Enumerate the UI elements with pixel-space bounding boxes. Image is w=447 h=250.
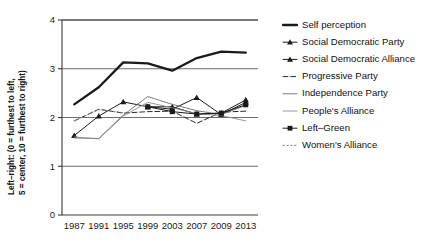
legend-item-label: Left–Green xyxy=(302,122,350,133)
legend-item-5[interactable]: Independence Party xyxy=(283,87,388,98)
x-axis-ticks: 19871991199519992003200720092013 xyxy=(64,220,257,231)
series-line xyxy=(74,52,246,105)
y-axis-ticks: 01234 xyxy=(50,14,62,220)
series-marker xyxy=(96,113,102,119)
y-tick-label: 4 xyxy=(50,14,55,25)
chart-legend: Self perceptionSocial Democratic PartySo… xyxy=(283,19,415,150)
y-tick-label: 0 xyxy=(50,209,55,220)
series-marker xyxy=(194,112,199,117)
series-marker xyxy=(120,99,126,105)
x-tick-label: 2003 xyxy=(162,220,183,231)
legend-item-label: Self perception xyxy=(302,19,366,30)
y-axis-title: Left–right: (0 = furthest to left, 5 = c… xyxy=(7,70,27,195)
x-tick-label: 1999 xyxy=(137,220,158,231)
series-1 xyxy=(74,52,246,105)
y-tick-label: 2 xyxy=(50,112,55,123)
x-tick-label: 1995 xyxy=(113,220,134,231)
x-tick-label: 1991 xyxy=(88,220,109,231)
legend-item-2[interactable]: Social Democratic Party xyxy=(283,36,405,47)
legend-item-label: Women's Alliance xyxy=(302,139,377,150)
legend-item-label: Social Democratic Alliance xyxy=(302,53,415,64)
legend-item-4[interactable]: Progressive Party xyxy=(283,70,378,81)
y-tick-label: 1 xyxy=(50,161,55,172)
x-tick-label: 2007 xyxy=(186,220,207,231)
legend-item-label: Progressive Party xyxy=(302,70,378,81)
series-7 xyxy=(145,102,248,116)
y-axis-title-line1: Left–right: (0 = furthest to left, xyxy=(7,78,16,195)
legend-swatch-marker xyxy=(288,126,293,131)
legend-item-3[interactable]: Social Democratic Alliance xyxy=(283,53,415,64)
x-tick-label: 2009 xyxy=(211,220,232,231)
data-series xyxy=(71,52,249,139)
chart-svg: Left–right: (0 = furthest to left, 5 = c… xyxy=(0,0,447,250)
legend-item-label: Independence Party xyxy=(302,87,388,98)
y-tick-label: 3 xyxy=(50,63,55,74)
series-marker xyxy=(243,102,248,107)
chart-figure: Left–right: (0 = furthest to left, 5 = c… xyxy=(0,0,447,250)
x-tick-label: 1987 xyxy=(64,220,85,231)
legend-item-label: Social Democratic Party xyxy=(302,36,405,47)
y-axis-title-line2: 5 = center, 10 = furthest to right) xyxy=(18,70,27,195)
series-marker xyxy=(145,104,150,109)
legend-item-8[interactable]: Women's Alliance xyxy=(283,139,377,150)
series-marker xyxy=(194,94,200,100)
legend-item-7[interactable]: Left–Green xyxy=(283,122,350,133)
legend-item-label: People's Alliance xyxy=(302,105,374,116)
series-marker xyxy=(170,109,175,114)
x-tick-label: 2013 xyxy=(235,220,256,231)
legend-item-6[interactable]: People's Alliance xyxy=(283,105,374,116)
series-marker xyxy=(219,111,224,116)
legend-item-1[interactable]: Self perception xyxy=(283,19,366,30)
